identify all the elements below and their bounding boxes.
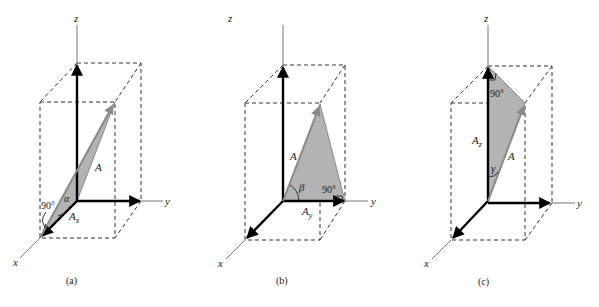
x-axis-line <box>20 238 40 258</box>
y-label: y <box>370 195 376 207</box>
z-label: z <box>73 12 79 24</box>
alpha-label: α <box>64 193 70 204</box>
x-label: x <box>217 257 223 269</box>
caption-c: (c) <box>478 276 489 288</box>
x-axis-line <box>432 240 451 259</box>
x-label: x <box>12 256 18 268</box>
right-angle-label: 90° <box>322 184 336 195</box>
component-label: Ay <box>301 205 313 220</box>
z-label: z <box>227 12 233 24</box>
right-angle-label: 90° <box>490 88 504 99</box>
panel-b: z y x A β 90° Ay (b) <box>217 12 376 287</box>
vector-a-label: A <box>289 150 297 162</box>
z-label: z <box>483 12 489 24</box>
panel-a: z y x A α 90° Ax (a) <box>12 12 170 287</box>
y-label: y <box>164 195 170 207</box>
right-angle-label: 90° <box>41 200 55 211</box>
caption-a: (a) <box>66 275 77 287</box>
x-axis-line <box>226 240 245 259</box>
x-arrow <box>247 201 283 238</box>
direction-angles-figure: z y x A α 90° Ax (a) z y x A β 90° Ay <box>0 0 599 307</box>
panel-c: z y x A γ 90° Az (c) <box>423 12 582 288</box>
beta-label: β <box>298 181 305 193</box>
shaded-triangle-c <box>488 66 525 201</box>
y-label: y <box>576 197 582 209</box>
component-label: Ax <box>68 210 80 225</box>
x-label: x <box>423 257 429 269</box>
vector-a-label: A <box>94 161 102 173</box>
vector-a-label: A <box>507 150 515 162</box>
component-label: Az <box>471 134 483 149</box>
gamma-label: γ <box>491 162 496 174</box>
caption-b: (b) <box>276 275 288 287</box>
x-arrow <box>453 201 488 238</box>
